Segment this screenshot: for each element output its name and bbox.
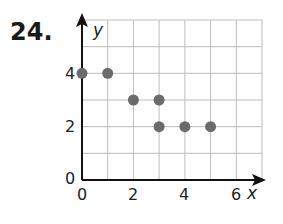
y-tick-2: 2 bbox=[65, 117, 75, 136]
x-tick-0: 0 bbox=[77, 185, 87, 204]
axes bbox=[82, 22, 258, 180]
x-tick-2: 2 bbox=[128, 185, 138, 204]
grid bbox=[82, 20, 262, 180]
y-axis-label: y bbox=[92, 20, 104, 40]
x-tick-4: 4 bbox=[179, 185, 189, 204]
y-tick-0: 0 bbox=[65, 169, 75, 188]
scatter-plot: y x 4 2 0 0 2 4 6 bbox=[0, 0, 283, 224]
x-axis-label: x bbox=[246, 183, 258, 203]
y-tick-4: 4 bbox=[65, 64, 75, 83]
x-tick-6: 6 bbox=[231, 185, 241, 204]
